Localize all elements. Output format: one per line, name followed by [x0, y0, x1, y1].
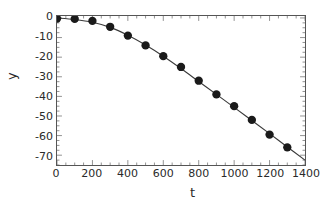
data-point	[141, 41, 149, 49]
fitted-curve-line	[57, 18, 305, 160]
data-point	[230, 102, 238, 110]
y-tick-label: -40	[35, 91, 53, 102]
y-tick-label: -30	[35, 71, 53, 82]
data-point	[283, 143, 291, 151]
x-tick-label: 600	[148, 168, 178, 179]
data-point-markers	[57, 16, 291, 152]
y-tick-label: 0	[46, 11, 53, 22]
plot-area	[56, 15, 306, 166]
x-tick-label: 200	[77, 168, 107, 179]
data-point	[159, 52, 167, 60]
x-tick-label: 1200	[255, 168, 285, 179]
data-point	[57, 16, 61, 23]
y-tick-label: -70	[35, 151, 53, 162]
data-point	[88, 17, 96, 25]
y-axis-title: y	[4, 72, 19, 80]
data-point	[124, 31, 132, 39]
data-point	[71, 16, 79, 23]
chart-screenshot: 0-10-20-30-40-50-60-70 y 020040060080010…	[0, 0, 331, 204]
y-tick-label: -50	[35, 111, 53, 122]
data-point	[248, 116, 256, 124]
data-point	[212, 90, 220, 98]
data-point	[195, 77, 203, 85]
y-tick-label: -20	[35, 51, 53, 62]
x-tick-label: 400	[112, 168, 142, 179]
y-tick-label: -10	[35, 31, 53, 42]
plot-svg	[57, 16, 305, 165]
axis-tick-marks	[57, 16, 305, 165]
x-tick-label: 1000	[220, 168, 250, 179]
data-point	[265, 130, 273, 138]
x-tick-label: 800	[184, 168, 214, 179]
x-axis-title: t	[0, 185, 331, 200]
x-axis-title-text: t	[190, 185, 195, 200]
data-point	[106, 23, 114, 31]
x-axis-tick-labels: 0200400600800100012001400	[0, 168, 331, 184]
data-point	[177, 63, 185, 71]
x-tick-label: 0	[41, 168, 71, 179]
x-tick-label: 1400	[291, 168, 321, 179]
y-axis-title-text: y	[4, 72, 19, 80]
y-tick-label: -60	[35, 131, 53, 142]
